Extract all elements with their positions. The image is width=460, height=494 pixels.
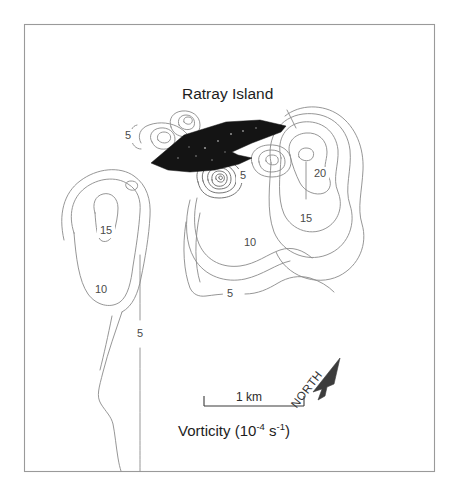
contour-lee-eddy-5: [216, 174, 225, 182]
contour-label: 5: [240, 169, 246, 181]
scale-bar-label: 1 km: [236, 390, 262, 404]
island-texture-speck: [217, 140, 219, 142]
contour-peak-west: [126, 181, 138, 190]
island-texture-speck: [255, 127, 257, 129]
contour-south-level-10b: [187, 200, 290, 280]
island-texture-speck: [242, 130, 244, 132]
vorticity-contour-figure: 5 5 20 15 15 10 10 5 5 Ratray Island: [0, 0, 460, 494]
island-texture-speck: [230, 133, 232, 135]
contour-label: 10: [95, 283, 107, 295]
caption-suffix: ): [285, 422, 290, 439]
contour-label: 5: [125, 129, 131, 141]
contour-label: 15: [100, 224, 112, 236]
contour-south-level-5c: [196, 213, 200, 282]
contour-label: 15: [300, 212, 312, 224]
island-texture-speck: [188, 146, 189, 147]
contour-east-level-20: [289, 133, 330, 194]
contour-level-5-nw-peak: [184, 117, 193, 124]
contour-label: 10: [244, 236, 256, 248]
contour-lee-eddy-core: [219, 176, 223, 180]
island-texture-speck: [195, 155, 197, 157]
contour-tail-west: [98, 312, 122, 471]
contour-south-level-5b: [245, 277, 334, 294]
contour-label: 5: [137, 327, 143, 339]
island-texture-speck: [204, 147, 206, 149]
contour-south-level-10: [195, 198, 312, 266]
figure-caption: Vorticity (10-4 s-1): [178, 421, 290, 439]
contour-plot: 5 5 20 15 15 10 10 5 5: [0, 0, 460, 494]
caption-prefix: Vorticity (10: [178, 422, 256, 439]
contour-label: 20: [314, 167, 326, 179]
contour-label: 5: [227, 287, 233, 299]
contour-level-5-nw-loop2: [157, 132, 170, 143]
caption-mid: s: [265, 422, 277, 439]
contour-mid-lobe-core: [266, 155, 278, 165]
caption-exponent-1: -4: [256, 421, 264, 432]
contour-east-level-10: [269, 114, 352, 258]
contour-east-peak-20: [298, 148, 313, 161]
contour-south-level-5: [184, 222, 228, 296]
island-texture-speck: [177, 157, 179, 159]
page-title: Ratray Island: [182, 85, 273, 103]
caption-exponent-2: -1: [277, 421, 285, 432]
island-texture-speck: [224, 151, 225, 152]
island-texture-speck: [211, 159, 213, 161]
